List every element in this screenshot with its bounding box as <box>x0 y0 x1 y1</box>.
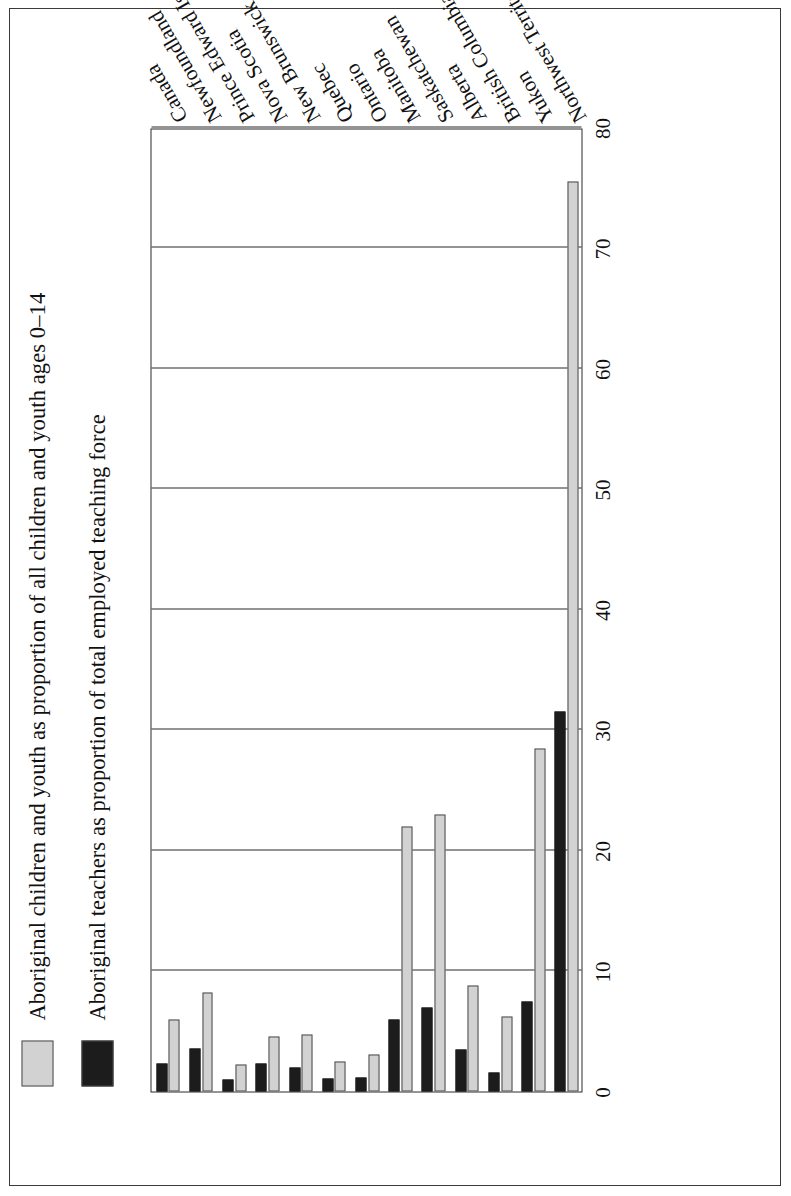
bar-teachers <box>355 1077 366 1091</box>
x-axis-tick-labels: 01020304050607080 <box>590 128 630 1092</box>
bar-teachers <box>521 1001 532 1091</box>
x-tick-label: 0 <box>590 1087 615 1098</box>
x-tick-label: 70 <box>590 238 615 259</box>
bar-children-youth <box>467 985 478 1091</box>
x-tick-label: 30 <box>590 720 615 741</box>
bar-teachers <box>388 1019 399 1091</box>
bar-children-youth <box>168 1019 179 1091</box>
plot-area <box>150 128 582 1092</box>
bar-children-youth <box>368 1054 379 1091</box>
bar-children-youth <box>501 1016 512 1091</box>
bar-children-youth <box>301 1034 312 1091</box>
x-tick-label: 60 <box>590 359 615 380</box>
chart-legend: Aboriginal children and youth as proport… <box>20 386 140 1086</box>
x-tick-label: 40 <box>590 600 615 621</box>
bar-teachers <box>421 1007 432 1091</box>
bar-teachers <box>455 1049 466 1091</box>
bar-teachers <box>554 711 565 1091</box>
x-tick-label: 80 <box>590 118 615 139</box>
bars-layer <box>151 129 581 1091</box>
x-tick-label: 10 <box>590 961 615 982</box>
grey-swatch-icon <box>21 1040 53 1086</box>
bar-teachers <box>488 1072 499 1091</box>
bar-teachers <box>289 1067 300 1091</box>
bar-children-youth <box>534 748 545 1091</box>
legend-item-label: Aboriginal children and youth as proport… <box>24 292 50 1020</box>
gridline <box>151 126 581 127</box>
bar-children-youth <box>202 992 213 1091</box>
bar-teachers <box>156 1063 167 1091</box>
bar-children-youth <box>401 826 412 1091</box>
bar-children-youth <box>235 1065 246 1092</box>
legend-item-label: Aboriginal teachers as proportion of tot… <box>84 414 110 1020</box>
bar-children-youth <box>268 1036 279 1091</box>
bar-children-youth <box>334 1061 345 1091</box>
bar-teachers <box>189 1048 200 1091</box>
legend-item: Aboriginal children and youth as proport… <box>20 386 54 1086</box>
legend-item: Aboriginal teachers as proportion of tot… <box>80 386 114 1086</box>
bar-children-youth <box>434 814 445 1091</box>
chart-figure: Aboriginal children and youth as proport… <box>0 0 791 1196</box>
x-tick-label: 50 <box>590 479 615 500</box>
black-swatch-icon <box>81 1040 113 1086</box>
bar-children-youth <box>567 181 578 1091</box>
bar-teachers <box>255 1063 266 1091</box>
bar-teachers <box>322 1078 333 1091</box>
x-tick-label: 20 <box>590 841 615 862</box>
rotated-figure-wrapper: Aboriginal children and youth as proport… <box>0 0 791 1196</box>
bar-teachers <box>222 1079 233 1091</box>
